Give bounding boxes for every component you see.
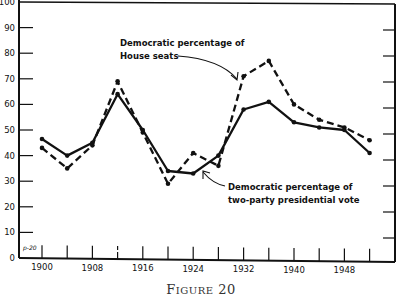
data-point	[342, 128, 347, 133]
figure-caption: FIGURE 20	[166, 282, 235, 297]
data-point	[65, 166, 70, 171]
data-point	[267, 100, 272, 105]
y-tick-label: 40	[4, 151, 15, 161]
data-point	[292, 102, 297, 107]
data-point	[317, 125, 322, 130]
data-point	[267, 59, 272, 64]
y-tick-label: 80	[4, 48, 15, 58]
data-point	[317, 117, 322, 122]
data-point	[166, 169, 171, 174]
data-point	[367, 151, 372, 156]
y-tick-label: 50	[4, 125, 15, 135]
data-point	[367, 138, 372, 143]
data-point	[292, 120, 297, 125]
data-point	[115, 79, 120, 84]
y-tick-label: 20	[4, 202, 15, 212]
annotations: Democratic percentage ofHouse seatsDemoc…	[120, 38, 360, 205]
data-point	[216, 153, 221, 158]
x-tick-label: 1924	[182, 264, 204, 274]
data-point	[166, 181, 171, 186]
y-tick-label: 30	[4, 176, 15, 186]
y-tick-label: 100	[0, 0, 15, 7]
presidential-vote-annotation-line1: Democratic percentage of	[228, 182, 353, 192]
data-point	[241, 74, 246, 79]
data-point	[90, 141, 95, 146]
line-chart: 0102030405060708090100 19001908191619241…	[0, 0, 402, 302]
data-point	[141, 128, 146, 133]
corner-mark: p-20	[22, 244, 37, 252]
y-tick-label: 90	[4, 23, 15, 33]
x-tick-label: 1916	[132, 263, 154, 273]
data-point	[40, 146, 45, 151]
data-point	[191, 171, 196, 176]
x-tick-label: 1900	[31, 262, 53, 272]
data-point	[65, 153, 70, 158]
x-tick-label: 1908	[82, 263, 104, 273]
x-tick-label: 1948	[334, 265, 356, 275]
data-point	[216, 164, 221, 169]
y-tick-label: 0	[10, 253, 15, 263]
house-seats-annotation-line2: House seats	[120, 51, 178, 61]
presidential-vote-annotation-line2: two-party presidential vote	[228, 195, 360, 205]
x-tick-label: 1940	[283, 265, 305, 275]
presidential-vote-line	[42, 94, 370, 173]
y-tick-label: 60	[4, 99, 15, 109]
y-tick-label: 10	[4, 227, 15, 237]
data-point	[40, 137, 45, 142]
right-axis	[383, 30, 395, 238]
house-seats-annotation-line1: Democratic percentage of	[120, 38, 245, 48]
data-point	[241, 107, 246, 112]
series-lines	[40, 59, 372, 186]
data-point	[115, 92, 120, 97]
y-tick-label: 70	[4, 74, 15, 84]
data-point	[191, 151, 196, 156]
x-tick-label: 1932	[233, 264, 255, 274]
y-axis: 0102030405060708090100	[0, 0, 33, 263]
